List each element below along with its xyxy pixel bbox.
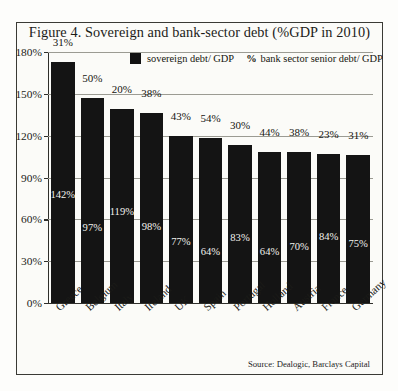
bar-group[interactable]: 30%83% bbox=[228, 52, 252, 303]
bar-group[interactable]: 44%64% bbox=[258, 52, 282, 303]
bar[interactable] bbox=[51, 62, 75, 303]
bar-sovereign-value-label: 64% bbox=[260, 246, 279, 257]
bar-group[interactable]: 23%84% bbox=[317, 52, 341, 303]
bar[interactable] bbox=[228, 145, 252, 303]
y-tick-label: 0% bbox=[4, 297, 42, 309]
bar-group[interactable]: 50%97% bbox=[81, 52, 105, 303]
bar-group[interactable]: 38%98% bbox=[140, 52, 164, 303]
bar-sovereign-value-label: 97% bbox=[83, 222, 102, 233]
bar-group[interactable]: 38%70% bbox=[287, 52, 311, 303]
y-tick-label: 180% bbox=[4, 46, 42, 58]
bar-bank-value-label: 44% bbox=[259, 126, 279, 139]
bar-sovereign-value-label: 75% bbox=[349, 238, 368, 249]
bar-sovereign-value-label: 84% bbox=[319, 231, 338, 242]
bar-bank-value-label: 38% bbox=[289, 126, 309, 139]
bar-bank-value-label: 31% bbox=[348, 129, 368, 142]
y-tick-label: 120% bbox=[4, 130, 42, 142]
bar-group[interactable]: 54%64% bbox=[199, 52, 223, 303]
bar-group[interactable]: 43%77% bbox=[169, 52, 193, 303]
y-tick-label: 30% bbox=[4, 255, 42, 267]
bar-bank-value-label: 23% bbox=[319, 128, 339, 141]
bar-sovereign-value-label: 83% bbox=[230, 232, 249, 243]
bar-bank-value-label: 30% bbox=[230, 119, 250, 132]
plot-area: 31%142%50%97%20%119%38%98%43%77%54%64%30… bbox=[48, 52, 373, 303]
bar[interactable] bbox=[81, 98, 105, 303]
bar-bank-value-label: 38% bbox=[141, 87, 161, 100]
bar-sovereign-value-label: 77% bbox=[171, 236, 190, 247]
bar-bank-value-label: 43% bbox=[171, 110, 191, 123]
bar[interactable] bbox=[346, 155, 370, 303]
bar-group[interactable]: 20%119% bbox=[110, 52, 134, 303]
bar[interactable] bbox=[287, 152, 311, 303]
y-tick-label: 90% bbox=[4, 172, 42, 184]
bar-sovereign-value-label: 119% bbox=[110, 206, 134, 217]
bar[interactable] bbox=[169, 136, 193, 303]
bar[interactable] bbox=[140, 113, 164, 303]
bar-bank-value-label: 31% bbox=[53, 36, 73, 49]
bar-sovereign-value-label: 142% bbox=[50, 189, 75, 200]
bar-bank-value-label: 54% bbox=[200, 112, 220, 125]
bar-series: 31%142%50%97%20%119%38%98%43%77%54%64%30… bbox=[48, 52, 373, 303]
bar-group[interactable]: 31%142% bbox=[51, 52, 75, 303]
y-tick-label: 150% bbox=[4, 88, 42, 100]
bar-bank-value-label: 50% bbox=[82, 72, 102, 85]
bar-sovereign-value-label: 64% bbox=[201, 246, 220, 257]
bar-group[interactable]: 31%75% bbox=[346, 52, 370, 303]
source-note: Source: Dealogic, Barclays Capital bbox=[248, 359, 370, 369]
figure-root: Figure 4. Sovereign and bank-sector debt… bbox=[0, 0, 398, 391]
bar[interactable] bbox=[199, 138, 223, 303]
y-tick-label: 60% bbox=[4, 213, 42, 225]
bar-sovereign-value-label: 98% bbox=[142, 221, 161, 232]
bar-bank-value-label: 20% bbox=[112, 83, 132, 96]
bar-sovereign-value-label: 70% bbox=[289, 241, 308, 252]
bar[interactable] bbox=[317, 154, 341, 303]
